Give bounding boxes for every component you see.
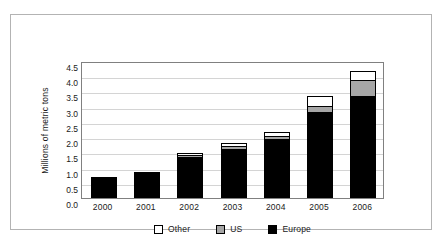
bar-segment-us[interactable] (350, 80, 376, 96)
y-tick-label: 0.5 (55, 184, 78, 196)
legend-label: Other (168, 224, 190, 234)
y-tick-label: 3.0 (55, 108, 78, 120)
y-tick-label: 1.0 (55, 169, 78, 181)
bar-group[interactable] (307, 96, 333, 198)
y-tick-label: 4.5 (55, 62, 78, 74)
bar-group[interactable] (350, 71, 376, 198)
x-tick-label: 2003 (211, 202, 255, 212)
gray-square-icon (216, 225, 225, 234)
x-tick-label: 2004 (254, 202, 298, 212)
y-tick-label: 3.5 (55, 92, 78, 104)
bar-segment-europe[interactable] (91, 177, 117, 198)
bars-layer (82, 63, 383, 198)
legend-entry-europe[interactable]: Europe (268, 224, 311, 234)
bar-segment-europe[interactable] (307, 112, 333, 198)
x-tick-label: 2002 (167, 202, 211, 212)
legend-label: Europe (282, 224, 311, 234)
bar-segment-europe[interactable] (350, 96, 376, 198)
x-tick-label: 2001 (124, 202, 168, 212)
x-tick-label: 2006 (340, 202, 384, 212)
y-tick-label: 2.5 (55, 123, 78, 135)
bar-group[interactable] (177, 153, 203, 198)
y-tick-label: 2.0 (55, 138, 78, 150)
bar-segment-other[interactable] (350, 71, 376, 80)
y-tick-label: 4.0 (55, 77, 78, 89)
bar-segment-other[interactable] (307, 96, 333, 106)
figure-frame: Millions of metric tons 4.54.03.53.02.52… (10, 14, 432, 230)
bar-group[interactable] (221, 143, 247, 198)
black-square-icon (268, 225, 277, 234)
bar-segment-europe[interactable] (134, 172, 160, 198)
legend-entry-other[interactable]: Other (154, 224, 190, 234)
bar-segment-europe[interactable] (221, 149, 247, 198)
y-tick-label: 0.0 (55, 199, 78, 211)
legend-label: US (230, 224, 242, 234)
white-square-icon (154, 225, 163, 234)
bar-group[interactable] (134, 172, 160, 198)
x-axis-tick-labels: 2000200120022003200420052006 (81, 202, 384, 216)
bar-group[interactable] (91, 177, 117, 198)
legend-entry-us[interactable]: US (216, 224, 242, 234)
y-axis-title: Millions of metric tons (38, 62, 52, 199)
y-tick-label: 1.5 (55, 153, 78, 165)
chart-legend: OtherUSEurope (81, 222, 384, 236)
x-tick-label: 2005 (297, 202, 341, 212)
y-axis-tick-labels: 4.54.03.53.02.52.01.51.00.50.0 (55, 56, 78, 205)
x-tick-label: 2000 (81, 202, 125, 212)
plot-area (81, 62, 384, 199)
bar-group[interactable] (264, 132, 290, 198)
bar-segment-europe[interactable] (177, 157, 203, 198)
bar-segment-europe[interactable] (264, 139, 290, 198)
